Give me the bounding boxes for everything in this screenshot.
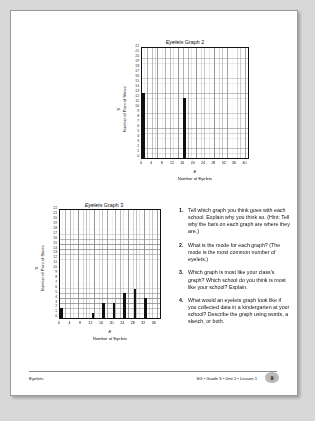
x-tick-label: 20 (191, 161, 195, 165)
y-tick-label: 16 (135, 75, 139, 78)
y-tick-label: 20 (53, 217, 57, 220)
graph2-y-ticks: 012345678910111213141516171819202122 (127, 47, 139, 159)
graph3-x-variable: E (59, 329, 161, 334)
graph3-bars (60, 210, 160, 318)
y-tick-label: 9 (137, 110, 139, 113)
graph3-plot-area (59, 209, 161, 319)
question-item: 1.Tell which graph you think goes with e… (179, 207, 291, 235)
y-tick-label: 7 (55, 281, 57, 284)
y-tick-label: 6 (137, 125, 139, 128)
bar (92, 313, 95, 318)
x-tick-label: 28 (211, 161, 215, 165)
y-tick-label: 22 (53, 207, 57, 210)
bar (102, 303, 105, 318)
x-tick-label: 28 (131, 321, 135, 325)
graph2-x-axis-label: Number of Eyelets (127, 176, 263, 181)
worksheet-page: Eyelets Graph 2 P Number of Pairs of Sho… (10, 10, 298, 396)
bar (60, 308, 63, 318)
bar (113, 303, 116, 318)
y-tick-label: 8 (55, 276, 57, 279)
question-item: 2.What is the mode for each graph? (The … (179, 242, 291, 263)
y-tick-label: 22 (135, 45, 139, 48)
y-tick-label: 4 (137, 135, 139, 138)
y-tick-label: 5 (55, 291, 57, 294)
graph3-title-italic: Eyelets (85, 202, 103, 208)
x-tick-label: 12 (89, 321, 93, 325)
x-tick-label: 0 (58, 321, 60, 325)
question-number: 3. (179, 269, 183, 275)
y-tick-label: 8 (137, 115, 139, 118)
graph2-x-variable: E (141, 169, 249, 174)
y-tick-label: 13 (135, 90, 139, 93)
page-footer: Eyelets SG • Grade 5 • Unit 1 • Lesson 1… (29, 374, 279, 388)
y-tick-label: 21 (53, 212, 57, 215)
question-list: 1.Tell which graph you think goes with e… (179, 207, 291, 332)
x-tick-label: 36 (152, 321, 156, 325)
y-tick-label: 2 (55, 305, 57, 308)
y-tick-label: 9 (55, 271, 57, 274)
bar (123, 293, 126, 318)
x-tick-label: 4 (69, 321, 71, 325)
bar (142, 93, 145, 158)
question-text: Tell which graph you think goes with eac… (188, 207, 291, 235)
x-tick-label: 32 (141, 321, 145, 325)
question-text: What is the mode for each graph? (The mo… (188, 242, 291, 263)
y-tick-label: 14 (53, 247, 57, 250)
y-tick-label: 3 (137, 140, 139, 143)
graph3-title-rest: Graph 3 (102, 202, 123, 208)
y-tick-label: 20 (135, 55, 139, 58)
y-tick-label: 6 (55, 286, 57, 289)
y-tick-label: 4 (55, 296, 57, 299)
x-tick-label: 20 (110, 321, 114, 325)
graph2-plot-area (141, 47, 249, 159)
x-tick-label: 8 (79, 321, 81, 325)
graph3-title: Eyelets Graph 3 (43, 202, 165, 208)
y-tick-label: 3 (55, 301, 57, 304)
graph3-x-axis-label: Number of Eyelets (45, 336, 175, 341)
footer-source-line: SG • Grade 5 • Unit 1 • Lesson 1 (197, 376, 258, 381)
y-tick-label: 5 (137, 130, 139, 133)
y-tick-label: 16 (53, 237, 57, 240)
y-tick-label: 18 (53, 227, 57, 230)
y-tick-label: 11 (54, 261, 57, 264)
x-tick-label: 16 (180, 161, 184, 165)
y-tick-label: 19 (135, 60, 139, 63)
y-tick-label: 17 (53, 232, 57, 235)
x-tick-label: 8 (161, 161, 163, 165)
y-tick-label: 1 (55, 310, 57, 313)
y-tick-label: 10 (53, 266, 57, 269)
x-tick-label: 0 (140, 161, 142, 165)
question-item: 3.Which graph is most like your class's … (179, 269, 291, 290)
question-number: 1. (179, 207, 183, 213)
graph2-x-ticks: 0481216202428323640 (141, 161, 249, 167)
graph2-bars (142, 48, 248, 158)
y-tick-label: 2 (137, 145, 139, 148)
x-tick-label: 40 (242, 161, 246, 165)
y-tick-label: 10 (135, 105, 139, 108)
y-tick-label: 15 (135, 80, 139, 83)
y-tick-label: 21 (135, 50, 139, 53)
y-tick-label: 12 (53, 256, 57, 259)
question-number: 4. (179, 297, 183, 303)
bar (134, 289, 137, 318)
x-tick-label: 24 (201, 161, 205, 165)
graph3-y-ticks: 012345678910111213141516171819202122 (45, 209, 57, 319)
bar (183, 98, 186, 158)
question-text: What would an eyelets graph look like if… (188, 297, 291, 325)
x-tick-label: 36 (232, 161, 236, 165)
question-item: 4.What would an eyelets graph look like … (179, 297, 291, 325)
footer-section-title: Eyelets (29, 376, 43, 381)
graph3-x-ticks: 04812162024283236 (59, 321, 161, 327)
y-tick-label: 11 (136, 100, 139, 103)
footer-divider (29, 371, 277, 372)
x-tick-label: 16 (99, 321, 103, 325)
y-tick-label: 0 (137, 155, 139, 158)
question-text: Which graph is most like your class's gr… (188, 269, 291, 290)
graph2-title-rest: Graph 2 (183, 39, 204, 45)
question-number: 2. (179, 242, 183, 248)
eyelets-graph-3: Eyelets Graph 3 P Number of Pairs of Sho… (29, 202, 165, 354)
graph2-title-italic: Eyelets (166, 39, 184, 45)
y-tick-label: 18 (135, 65, 139, 68)
y-tick-label: 15 (53, 242, 57, 245)
y-tick-label: 0 (55, 315, 57, 318)
